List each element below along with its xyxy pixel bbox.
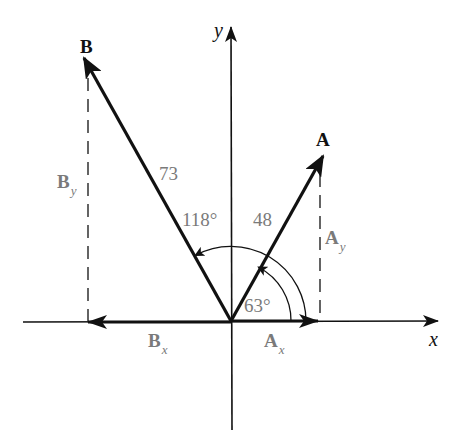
- b-x-subscript: x: [162, 342, 168, 357]
- vector-a-magnitude: 48: [253, 210, 272, 229]
- vector-b-label: B: [80, 37, 93, 56]
- a-x-component-label: Ax: [264, 331, 285, 356]
- vector-b-arrow: [84, 58, 231, 321]
- y-axis: [231, 27, 232, 430]
- vector-a-label: A: [316, 130, 330, 149]
- b-x-component-label: Bx: [148, 331, 167, 356]
- vector-b-angle: 118°: [182, 210, 217, 229]
- y-axis-label: y: [214, 20, 223, 40]
- a-y-symbol: A: [325, 227, 339, 248]
- vector-b-magnitude: 73: [159, 164, 178, 183]
- a-y-subscript: y: [340, 239, 346, 254]
- b-y-component-label: By: [57, 172, 76, 197]
- a-y-component-label: Ay: [325, 228, 346, 253]
- a-x-symbol: A: [264, 330, 278, 351]
- b-y-subscript: y: [71, 183, 77, 198]
- b-y-symbol: B: [57, 171, 70, 192]
- vector-a-angle: 63°: [244, 296, 271, 315]
- b-x-symbol: B: [148, 330, 161, 351]
- a-x-subscript: x: [279, 342, 285, 357]
- diagram-canvas: [0, 0, 465, 446]
- vector-diagram: B A y x 73 48 118° 63° By Ay Bx Ax: [0, 0, 465, 446]
- x-axis-label: x: [429, 329, 438, 349]
